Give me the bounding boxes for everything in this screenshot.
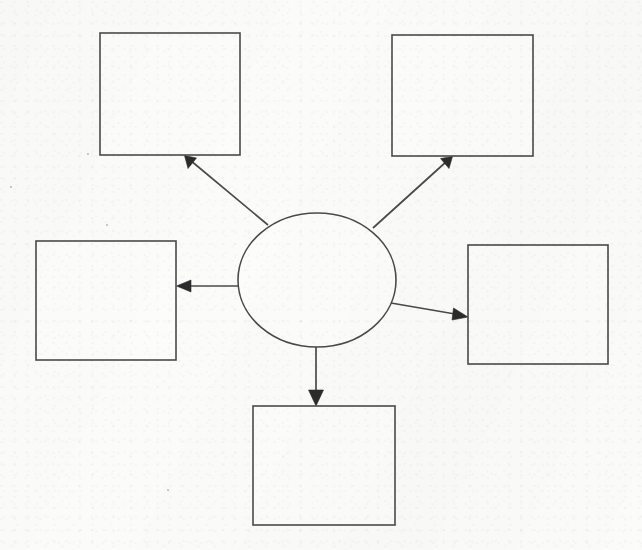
node-top-left[interactable]: [100, 33, 240, 155]
diagram-page: [0, 0, 642, 550]
node-bottom[interactable]: [253, 406, 395, 525]
center-node[interactable]: [238, 213, 396, 347]
connector-line-top-left: [190, 160, 268, 225]
node-middle-right[interactable]: [468, 245, 608, 364]
node-box-top-left[interactable]: [100, 33, 240, 155]
arrowhead-bottom: [309, 390, 324, 406]
center-ellipse[interactable]: [238, 213, 396, 347]
connector-line-middle-right: [391, 303, 455, 314]
connector-center-to-top-right[interactable]: [373, 157, 453, 229]
arrowhead-top-right: [441, 157, 453, 169]
node-box-middle-left[interactable]: [36, 241, 176, 360]
concept-map-canvas: [0, 0, 642, 550]
node-box-bottom[interactable]: [253, 406, 395, 525]
node-top-right[interactable]: [392, 35, 533, 156]
node-box-top-right[interactable]: [392, 35, 533, 156]
connector-center-to-top-left[interactable]: [185, 156, 269, 226]
node-middle-left[interactable]: [36, 241, 176, 360]
connector-center-to-middle-left[interactable]: [177, 280, 240, 292]
connector-line-top-right: [373, 161, 447, 228]
arrowhead-middle-left: [177, 280, 192, 292]
node-box-middle-right[interactable]: [468, 245, 608, 364]
arrowhead-top-left: [185, 156, 197, 169]
connector-center-to-bottom[interactable]: [309, 347, 324, 406]
arrowhead-middle-right: [452, 308, 468, 320]
connector-center-to-middle-right[interactable]: [391, 303, 468, 320]
